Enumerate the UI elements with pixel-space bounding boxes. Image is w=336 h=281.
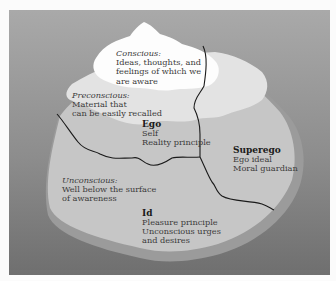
ego-label: Ego Self Reality principle xyxy=(142,119,211,147)
id-line-3: and desires xyxy=(142,236,221,245)
preconscious-line-2: can be easily recalled xyxy=(72,109,162,118)
id-label: Id Pleasure principle Unconscious urges … xyxy=(142,208,221,246)
conscious-line-3: are aware xyxy=(116,77,201,86)
ego-line-2: Reality principle xyxy=(142,138,211,147)
conscious-label: Conscious: Ideas, thoughts, and feelings… xyxy=(116,49,201,86)
superego-label: Superego Ego ideal Moral guardian xyxy=(233,145,298,173)
unconscious-label: Unconscious: Well below the surface of a… xyxy=(62,176,156,204)
unconscious-line-2: of awareness xyxy=(62,194,156,203)
superego-line-2: Moral guardian xyxy=(233,164,298,173)
preconscious-label: Preconscious: Material that can be easil… xyxy=(72,91,162,119)
